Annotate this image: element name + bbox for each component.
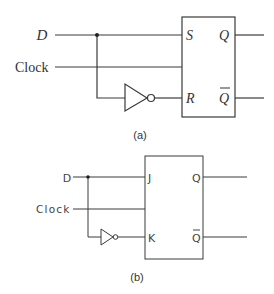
qbar-pin-label: Q — [219, 91, 229, 106]
clock-label-b: Clock — [36, 203, 71, 215]
clock-label: Clock — [15, 60, 48, 75]
s-pin-label: S — [186, 28, 193, 43]
inverter-icon-b — [101, 229, 113, 245]
diagram-b — [73, 156, 247, 259]
inverter-bubble-icon — [148, 95, 155, 102]
d-branch-wire-b — [88, 177, 101, 237]
junction-dot-icon-b — [86, 175, 90, 179]
d-label-b: D — [63, 172, 71, 185]
caption-a: (a) — [133, 129, 146, 141]
diagram-a — [55, 17, 264, 117]
flip-flop-diagrams: D Clock S R Q Q (a) D Clock J K Q Q (b) — [0, 0, 274, 294]
inverter-icon — [125, 84, 147, 111]
q-pin-label-b: Q — [192, 172, 201, 185]
d-label: D — [36, 27, 48, 43]
j-pin-label: J — [147, 172, 151, 185]
junction-dot-icon — [95, 33, 99, 37]
caption-b: (b) — [130, 271, 143, 283]
k-pin-label: K — [148, 232, 156, 245]
r-pin-label: R — [185, 91, 195, 106]
qbar-pin-label-b: Q — [192, 232, 201, 245]
q-pin-label: Q — [219, 28, 229, 43]
